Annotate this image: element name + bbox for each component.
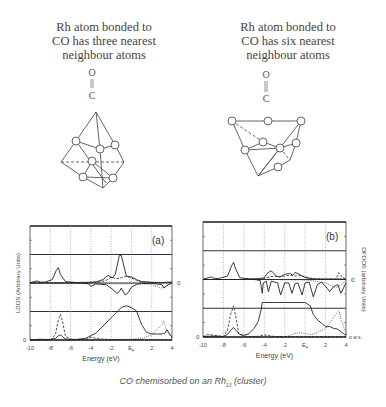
x-axis-label: Energy (eV) <box>82 355 119 363</box>
x-tick-label: -2 <box>282 342 287 348</box>
x-tick-label: EF <box>128 345 135 353</box>
right-rh-cluster-diagram <box>228 117 305 176</box>
opdos-chart-b: -10-8-6-4-2EF24Energy (eV)(b)00o w.s.OPD… <box>196 222 367 360</box>
caption-suffix: (cluster) <box>232 376 267 386</box>
dos-curve <box>30 321 172 340</box>
dos-curve <box>30 306 172 340</box>
oxygen-atom-label: O <box>88 67 95 78</box>
panel-label: (b) <box>326 231 338 242</box>
x-tick-label: 2 <box>324 342 327 348</box>
carbon-atom-label: C <box>263 93 270 104</box>
x-tick-label: -4 <box>262 342 267 348</box>
dos-curve <box>203 262 346 279</box>
x-tick-label: -8 <box>48 345 53 351</box>
x-tick-label: 4 <box>344 342 347 348</box>
zero-label: 0 <box>23 337 27 343</box>
x-tick-label: 2 <box>150 345 153 351</box>
zero-label: 0 <box>177 280 181 286</box>
dos-curve <box>30 314 172 340</box>
y-axis-label: LDOS (Arbitrary Units) <box>15 253 21 313</box>
figure-canvas: O C O C <box>0 0 386 407</box>
oxygen-atom-label: O <box>262 69 269 80</box>
zero-label: 0 <box>351 277 355 283</box>
x-tick-label: -6 <box>241 342 246 348</box>
wigner-seitz-label: o w.s. <box>349 334 362 340</box>
dos-curve <box>203 280 346 289</box>
right-co-molecule: O C <box>262 69 269 104</box>
x-axis-label: Energy (eV) <box>256 352 293 360</box>
left-rh-cluster-diagram <box>61 112 124 188</box>
dos-curve <box>30 283 172 295</box>
dos-curve <box>203 303 346 337</box>
carbon-atom-label: C <box>89 90 96 101</box>
panel-label: (a) <box>152 235 164 246</box>
caption-prefix: CO chemisorbed on an Rh <box>119 376 226 386</box>
x-tick-label: -8 <box>221 342 226 348</box>
y-axis-label: OPDOS (arbitrary Units) <box>361 247 367 312</box>
x-tick-label: -4 <box>88 345 93 351</box>
figure-caption: CO chemisorbed on an Rh13 (cluster) <box>0 376 386 388</box>
x-tick-label: -10 <box>199 342 207 348</box>
dos-curve <box>30 256 172 283</box>
x-tick-label: -2 <box>109 345 114 351</box>
x-tick-label: 4 <box>170 345 173 351</box>
ldos-chart-a: -10-8-6-4-2EF24Energy (eV)(a)00LDOS (Arb… <box>15 226 181 363</box>
zero-label: 0 <box>196 334 200 340</box>
x-tick-label: EF <box>302 342 309 350</box>
left-co-molecule: O C <box>88 67 95 101</box>
dos-curve <box>203 280 346 297</box>
x-tick-label: -6 <box>68 345 73 351</box>
x-tick-label: -10 <box>26 345 34 351</box>
dos-curve <box>203 311 346 337</box>
dos-curve <box>203 306 346 337</box>
